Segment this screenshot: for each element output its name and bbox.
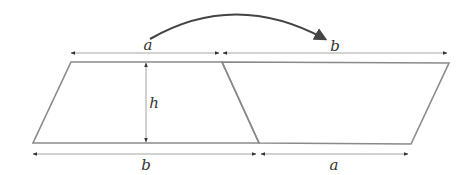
label-top-a: a <box>144 36 153 54</box>
curved-transfer-arrow <box>150 15 325 40</box>
trapezoid-diagram: a b h b a <box>0 0 466 175</box>
label-top-b: b <box>330 37 340 55</box>
right-trapezoid <box>222 62 449 144</box>
label-bottom-b: b <box>141 156 151 174</box>
label-bottom-a: a <box>330 156 339 174</box>
label-height-h: h <box>149 94 159 112</box>
